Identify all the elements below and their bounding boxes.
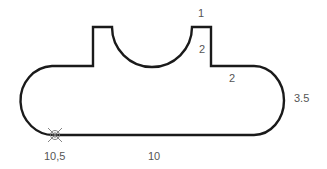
label-bottom-length: 10 (148, 150, 160, 162)
label-post-top-width: 1 (198, 7, 204, 19)
label-post-height: 2 (199, 43, 205, 55)
label-shoulder-length: 2 (229, 72, 235, 84)
label-start-point: 10,5 (44, 150, 65, 162)
profile-diagram: 1 2 2 3.5 10,5 10 (0, 0, 327, 169)
label-end-radius: 3.5 (294, 92, 309, 104)
profile-outline (20, 27, 284, 135)
start-point-marker (48, 128, 62, 142)
